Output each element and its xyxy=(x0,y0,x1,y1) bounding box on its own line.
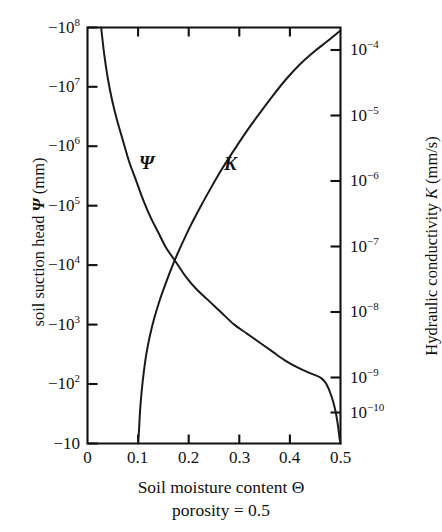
curve-k xyxy=(138,31,340,444)
top-axis-ticks xyxy=(138,28,290,37)
figure-soil-moisture-characteristic-curves: −10 −102 −103 −104 −105 −106 −107 −108 1… xyxy=(0,0,442,532)
bottom-tick-label-3: 0.3 xyxy=(219,449,260,466)
right-axis-title-text: Hydraulic conductivity xyxy=(422,203,441,356)
bottom-tick-label-0: 0 xyxy=(67,449,108,466)
right-tick-label-1: 10−5 xyxy=(350,107,379,124)
right-tick-label-0: 10−4 xyxy=(350,41,379,58)
bottom-axis-ticks xyxy=(138,435,290,444)
curve-label-psi: Ψ xyxy=(139,152,154,174)
bottom-axis-title-line1: Soil moisture content Θ xyxy=(0,476,442,499)
left-tick-label-1: −102 xyxy=(10,375,80,392)
right-tick-label-5: 10−9 xyxy=(350,369,379,386)
bottom-tick-label-1: 0.1 xyxy=(117,449,158,466)
left-axis-title-symbol: Ψ xyxy=(29,198,48,211)
left-tick-label-7: −108 xyxy=(10,19,80,36)
bottom-tick-label-5: 0.5 xyxy=(320,449,361,466)
right-tick-label-4: 10−8 xyxy=(350,303,379,320)
right-tick-label-6: 10−10 xyxy=(350,404,384,421)
curve-label-k: K xyxy=(224,153,237,175)
left-axis-ticks xyxy=(88,28,98,444)
bottom-axis-title-line2: porosity = 0.5 xyxy=(0,499,442,522)
bottom-tick-label-2: 0.2 xyxy=(168,449,209,466)
right-axis-title-unit: (mm/s) xyxy=(422,136,441,184)
right-axis-title-symbol: K xyxy=(422,188,441,199)
right-axis-title: Hydraulic conductivity K (mm/s) xyxy=(422,96,442,396)
plot-frame xyxy=(88,28,341,444)
right-tick-label-2: 10−6 xyxy=(350,172,379,189)
left-axis-title-unit: (mm) xyxy=(29,157,48,194)
curve-psi xyxy=(101,28,340,444)
left-tick-label-6: −107 xyxy=(10,78,80,95)
left-axis-title: soil suction head Ψ (mm) xyxy=(29,117,49,367)
left-axis-title-text: soil suction head xyxy=(29,216,48,327)
bottom-tick-label-4: 0.4 xyxy=(269,449,310,466)
right-tick-label-3: 10−7 xyxy=(350,238,379,255)
bottom-axis-title: Soil moisture content Θ porosity = 0.5 xyxy=(0,476,442,522)
right-axis-ticks xyxy=(331,50,341,413)
